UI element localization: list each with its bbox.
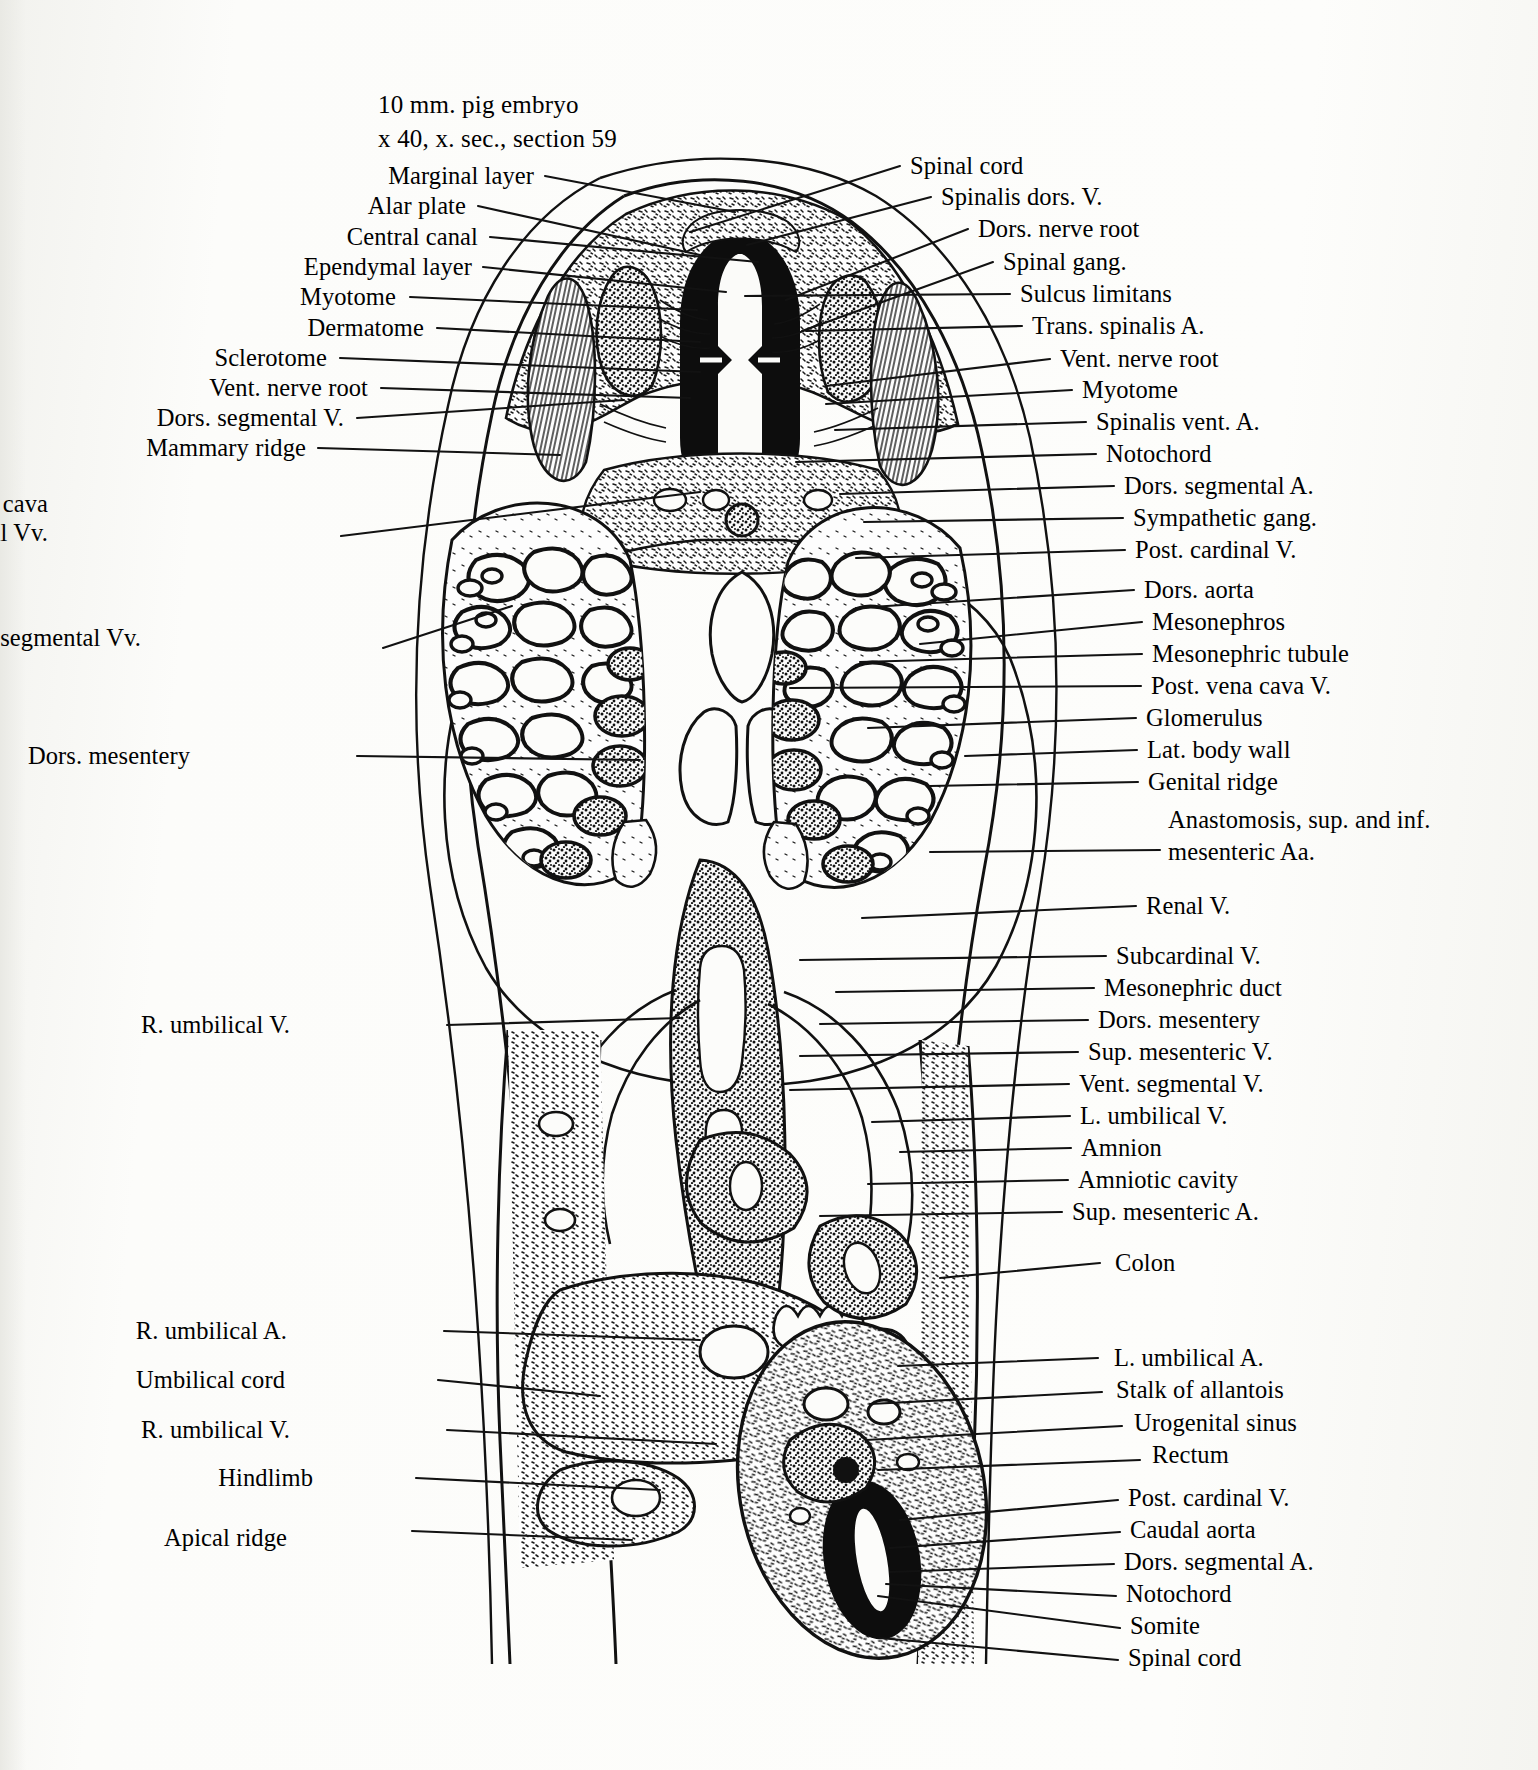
label-trans-spinalis-a: Trans. spinalis A. bbox=[1032, 311, 1204, 340]
leader-spinal-cord bbox=[690, 166, 900, 232]
scan-edge-shadow bbox=[0, 0, 26, 1770]
leader-hindlimb bbox=[416, 1478, 660, 1490]
label-myotome: Myotome bbox=[300, 282, 396, 311]
leader-vent-segmental-v bbox=[790, 1084, 1069, 1090]
leader-subcardinal-v bbox=[800, 956, 1106, 960]
leader-dors-mesentery bbox=[820, 1020, 1088, 1024]
label-dors-segmental-v: Dors. segmental V. bbox=[157, 403, 344, 432]
figure-page: 10 mm. pig embryo x 40, x. sec., section… bbox=[0, 0, 1538, 1770]
label-vent-nerve-root: Vent. nerve root bbox=[209, 373, 368, 402]
leader-l-umbilical-v bbox=[872, 1116, 1070, 1122]
label-genital-ridge: Genital ridge bbox=[1148, 767, 1278, 796]
label-anastomosis-post-vena-cava: Anastomosis, post. vena cava bbox=[0, 489, 48, 518]
leader-amnion bbox=[900, 1148, 1071, 1152]
label-alar-plate: Alar plate bbox=[368, 191, 466, 220]
label-rectum: Rectum bbox=[1152, 1440, 1229, 1469]
leader-spinalis-vent-a bbox=[835, 422, 1086, 430]
leader-dors-mesentery bbox=[357, 756, 640, 760]
label-somite: Somite bbox=[1130, 1611, 1200, 1640]
leader-l-umbilical-a bbox=[898, 1358, 1098, 1366]
leader-vent-nerve-root bbox=[381, 388, 690, 398]
leader-dors-nerve-root bbox=[786, 229, 968, 300]
leader-vent-nerve-root bbox=[826, 359, 1050, 386]
label-sup-mesenteric-a: Sup. mesenteric A. bbox=[1072, 1197, 1259, 1226]
figure-caption: 10 mm. pig embryo x 40, x. sec., section… bbox=[378, 88, 617, 156]
label-dermatome: Dermatome bbox=[307, 313, 424, 342]
leader-dors-segmental-a bbox=[840, 486, 1114, 494]
leader-mesenteric-aa bbox=[930, 850, 1160, 852]
leader-alar-plate bbox=[478, 206, 700, 255]
label-dors-mesentery: Dors. mesentery bbox=[28, 741, 190, 770]
leader-dors-segmental-v bbox=[357, 400, 624, 418]
paper-texture bbox=[0, 0, 1538, 1770]
label-sulcus-limitans: Sulcus limitans bbox=[1020, 279, 1172, 308]
label-spinal-gang: Spinal gang. bbox=[1003, 247, 1127, 276]
leader-myotome bbox=[826, 390, 1072, 404]
label-notochord: Notochord bbox=[1106, 439, 1212, 468]
label-dors-segmental-a: Dors. segmental A. bbox=[1124, 1547, 1314, 1576]
label-vent-segmental-vv: Vent. segmental Vv. bbox=[0, 623, 141, 652]
leader-genital-ridge bbox=[930, 782, 1138, 786]
label-sup-mesenteric-v: Sup. mesenteric V. bbox=[1088, 1037, 1273, 1066]
label-caudal-aorta: Caudal aorta bbox=[1130, 1515, 1256, 1544]
label-mesenteric-aa: mesenteric Aa. bbox=[1168, 837, 1315, 866]
leader-mesonephric-duct bbox=[836, 988, 1094, 992]
leader-r-umbilical-a bbox=[444, 1331, 700, 1340]
label-post-cardinal-v: Post. cardinal V. bbox=[1128, 1483, 1289, 1512]
label-leader-lines bbox=[0, 0, 1538, 1770]
label-ependymal-layer: Ependymal layer bbox=[304, 252, 472, 281]
leader-somite bbox=[878, 1596, 1120, 1628]
label-l-umbilical-v: L. umbilical V. bbox=[1080, 1101, 1228, 1130]
leader-umbilical-cord bbox=[438, 1380, 600, 1396]
leader-vent-segmental-vv bbox=[383, 606, 512, 648]
leader-r-umbilical-v bbox=[447, 1018, 680, 1025]
label-dors-segmental-a: Dors. segmental A. bbox=[1124, 471, 1314, 500]
leader-mesonephros bbox=[920, 622, 1142, 644]
leader-spinal-gang bbox=[802, 262, 993, 331]
label-r-umbilical-v: R. umbilical V. bbox=[141, 1010, 290, 1039]
label-mesonephric-tubule: Mesonephric tubule bbox=[1152, 639, 1349, 668]
leader-rectum bbox=[878, 1460, 1140, 1470]
caption-line-1: 10 mm. pig embryo bbox=[378, 91, 579, 118]
label-subcardinal-v: Subcardinal V. bbox=[1116, 941, 1261, 970]
leader-r-umbilical-v bbox=[447, 1430, 716, 1444]
label-sclerotome: Sclerotome bbox=[214, 343, 327, 372]
label-amnion: Amnion bbox=[1081, 1133, 1162, 1162]
leader-mammary-ridge bbox=[318, 448, 560, 455]
label-post-vena-cava-v: Post. vena cava V. bbox=[1151, 671, 1331, 700]
label-sympathetic-gang: Sympathetic gang. bbox=[1133, 503, 1317, 532]
leader-lat-body-wall bbox=[965, 750, 1137, 756]
leader-spinal-cord bbox=[880, 1638, 1118, 1660]
leader-marginal-layer bbox=[545, 176, 735, 212]
label-spinal-cord: Spinal cord bbox=[910, 151, 1023, 180]
label-apical-ridge: Apical ridge bbox=[164, 1523, 287, 1552]
leader-colon bbox=[940, 1263, 1100, 1278]
label-glomerulus: Glomerulus bbox=[1146, 703, 1263, 732]
label-r-umbilical-a: R. umbilical A. bbox=[136, 1316, 287, 1345]
label-vent-nerve-root: Vent. nerve root bbox=[1060, 344, 1219, 373]
label-renal-v: Renal V. bbox=[1146, 891, 1230, 920]
leader-trans-spinalis-a bbox=[806, 326, 1022, 331]
label-mesonephric-duct: Mesonephric duct bbox=[1104, 973, 1282, 1002]
leader-dors-aorta bbox=[856, 590, 1134, 608]
label-dors-aorta: Dors. aorta bbox=[1144, 575, 1254, 604]
label-marginal-layer: Marginal layer bbox=[388, 161, 534, 190]
leader-dors-segmental-a bbox=[890, 1564, 1114, 1572]
leader-dermatome bbox=[437, 328, 700, 342]
label-mesonephros: Mesonephros bbox=[1152, 607, 1285, 636]
caption-line-2: x 40, x. sec., section 59 bbox=[378, 125, 617, 152]
leader-sup-mesenteric-a bbox=[820, 1212, 1062, 1216]
leader-renal-v bbox=[862, 906, 1136, 918]
label-spinalis-dors-v: Spinalis dors. V. bbox=[941, 182, 1102, 211]
label-and-post-cardinal-vv: and post. cardinal Vv. bbox=[0, 518, 48, 547]
label-spinalis-vent-a: Spinalis vent. A. bbox=[1096, 407, 1260, 436]
label-myotome: Myotome bbox=[1082, 375, 1178, 404]
label-notochord: Notochord bbox=[1126, 1579, 1232, 1608]
label-vent-segmental-v: Vent. segmental V. bbox=[1079, 1069, 1264, 1098]
label-urogenital-sinus: Urogenital sinus bbox=[1134, 1408, 1297, 1437]
leader-glomerulus bbox=[868, 718, 1136, 728]
label-umbilical-cord: Umbilical cord bbox=[136, 1365, 285, 1394]
leader-spinalis-dors-v bbox=[747, 197, 931, 245]
leader-ependymal-layer bbox=[483, 267, 726, 292]
label-dors-nerve-root: Dors. nerve root bbox=[978, 214, 1139, 243]
